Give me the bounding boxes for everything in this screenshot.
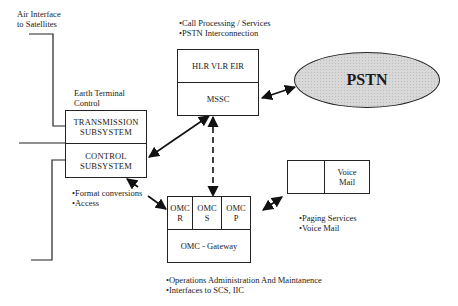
earth-terminal-label: Earth Terminal Control — [74, 88, 125, 108]
hlr-label: HLR VLR EIR — [192, 61, 244, 71]
omc-s-line1: OMC — [197, 203, 216, 213]
mssc-box: MSSC — [177, 82, 259, 116]
pstn-label: PSTN — [347, 71, 388, 89]
voice-mail-line2: Mail — [337, 177, 356, 187]
omc-r-line1: OMC — [170, 203, 189, 213]
voice-mail-box: VoiceMail — [324, 160, 370, 194]
control-note-format: •Format conversions — [72, 188, 142, 198]
omc-p-line1: OMC — [226, 203, 245, 213]
paging-note-paging: •Paging Services — [299, 213, 357, 223]
air-interface-line2: to Satellites — [17, 19, 61, 29]
msc-note-pstn-interconnection: •PSTN Interconnection — [179, 28, 271, 38]
omc-gateway-label: OMC - Gateway — [181, 241, 238, 251]
control-line2: SUBSYSTEM — [80, 161, 132, 171]
control-line1: CONTROL — [80, 151, 132, 161]
omc-s-line2: S — [197, 213, 216, 223]
msc-notes: •Call Processing / Services •PSTN Interc… — [179, 18, 271, 38]
control-note-access: •Access — [72, 198, 142, 208]
voice-mail-line1: Voice — [337, 167, 356, 177]
control-subsystem-box: CONTROLSUBSYSTEM — [65, 143, 147, 178]
omc-p-line2: P — [226, 213, 245, 223]
omc-p-box: OMCP — [221, 196, 251, 230]
hlr-vlr-eir-box: HLR VLR EIR — [177, 49, 259, 83]
omc-gateway-box: OMC - Gateway — [167, 229, 251, 263]
paging-box — [287, 160, 325, 194]
transmission-line1: TRANSMISSION — [73, 117, 138, 127]
omc-note-interfaces: •Interfaces to SCS, IIC — [166, 285, 322, 295]
control-notes: •Format conversions •Access — [72, 188, 142, 208]
msc-note-call-processing: •Call Processing / Services — [179, 18, 271, 28]
omc-note-oam: •Operations Administration And Maintanen… — [166, 275, 322, 285]
earth-terminal-line2: Control — [74, 98, 125, 108]
air-interface-label: Air Interface to Satellites — [17, 9, 61, 29]
omc-r-line2: R — [170, 213, 189, 223]
pstn-cloud: PSTN — [294, 52, 440, 108]
transmission-line2: SUBSYSTEM — [73, 127, 138, 137]
paging-notes: •Paging Services •Voice Mail — [299, 213, 357, 233]
omc-notes: •Operations Administration And Maintanen… — [166, 275, 322, 295]
transmission-subsystem-box: TRANSMISSIONSUBSYSTEM — [65, 110, 147, 144]
mssc-label: MSSC — [207, 94, 230, 104]
omc-s-box: OMCS — [192, 196, 222, 230]
omc-r-box: OMCR — [167, 196, 193, 230]
paging-note-voicemail: •Voice Mail — [299, 223, 357, 233]
earth-terminal-line1: Earth Terminal — [74, 88, 125, 98]
air-interface-line1: Air Interface — [17, 9, 61, 19]
